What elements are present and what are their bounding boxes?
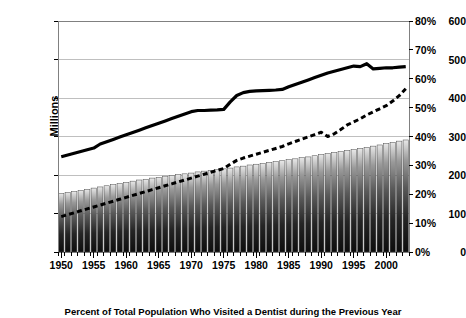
plot-area — [0, 0, 466, 318]
chart-container: Millions 0100200300400500600 0%10%20%30%… — [0, 0, 466, 318]
x-tick-marks — [58, 252, 409, 258]
chart-caption: Percent of Total Population Who Visited … — [0, 306, 466, 317]
